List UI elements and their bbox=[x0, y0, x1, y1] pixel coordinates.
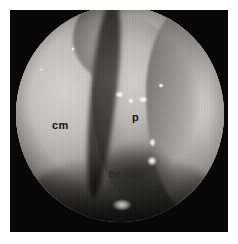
concha-media-structure bbox=[16, 12, 146, 208]
lateral-wall-structure bbox=[146, 10, 224, 212]
upper-groove-shadow bbox=[98, 17, 224, 76]
specular-highlight-cleft-upper bbox=[115, 91, 124, 98]
photo-frame: cm p be bbox=[10, 10, 228, 232]
specular-highlight-upper-left bbox=[71, 47, 75, 51]
specular-highlight-bulla-upper bbox=[149, 138, 156, 147]
specular-highlight-floor bbox=[112, 199, 132, 211]
specular-highlight-cleft-mid bbox=[128, 98, 134, 104]
lateral-wall-specular-glow bbox=[184, 24, 224, 200]
mucosa-base-layer bbox=[16, 10, 224, 222]
anatomy-label-concha-media: cm bbox=[52, 120, 69, 131]
anatomy-label-bulla-ethmoidalis: be bbox=[109, 170, 122, 180]
specular-highlight-polyp-right bbox=[158, 83, 164, 88]
specular-highlight-bulla-lower bbox=[147, 156, 157, 166]
field-vignette bbox=[16, 10, 224, 222]
specular-highlight-left-edge bbox=[40, 68, 43, 71]
endoscope-field-of-view bbox=[16, 10, 224, 222]
specular-highlight-cleft-right bbox=[138, 96, 148, 103]
polyp-structure bbox=[92, 18, 178, 196]
figure-root: cm p be bbox=[0, 0, 238, 244]
anatomy-label-polyp: p bbox=[132, 112, 139, 123]
video-scanline-texture bbox=[16, 10, 224, 222]
nasal-floor-shadow bbox=[24, 156, 224, 222]
upper-fold-structure bbox=[62, 10, 224, 104]
